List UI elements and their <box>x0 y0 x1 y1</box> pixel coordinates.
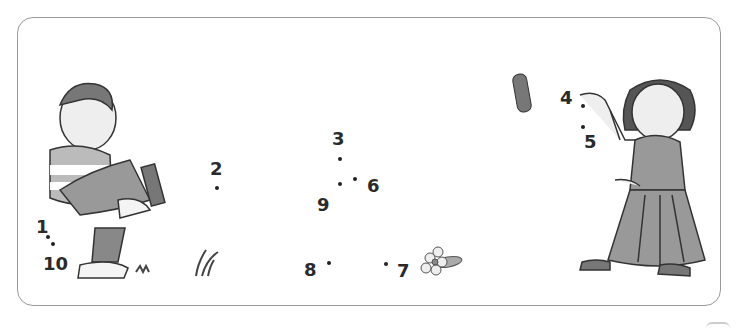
grass-icon <box>136 250 218 276</box>
illustration <box>0 0 741 328</box>
boy-illustration <box>50 83 165 278</box>
dot-7[interactable] <box>384 262 388 266</box>
dot-2[interactable] <box>215 186 219 190</box>
dot-1[interactable] <box>46 235 50 239</box>
dot-3[interactable] <box>338 157 342 161</box>
dot-label-3: 3 <box>332 130 345 148</box>
flower-icon <box>421 247 463 275</box>
dot-label-10: 10 <box>43 255 68 273</box>
girl-illustration <box>580 80 705 276</box>
dot-8[interactable] <box>327 261 331 265</box>
dot-label-4: 4 <box>560 89 573 107</box>
dot-10[interactable] <box>51 242 55 246</box>
dot-label-7: 7 <box>397 262 410 280</box>
dot-label-6: 6 <box>367 177 380 195</box>
dot-label-1: 1 <box>36 218 49 236</box>
dot-6[interactable] <box>353 177 357 181</box>
dot-label-8: 8 <box>304 261 317 279</box>
dot-label-5: 5 <box>584 133 597 151</box>
dot-5[interactable] <box>581 125 585 129</box>
stone-icon <box>512 73 532 113</box>
dot-label-9: 9 <box>317 196 330 214</box>
dot-label-2: 2 <box>210 160 223 178</box>
dot-4[interactable] <box>581 104 585 108</box>
dot-9[interactable] <box>338 182 342 186</box>
page-edge <box>706 322 730 328</box>
